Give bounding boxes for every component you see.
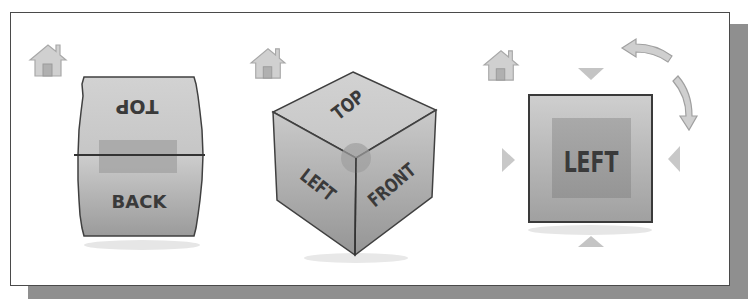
arrow-left-icon[interactable] <box>668 146 680 172</box>
home-icon[interactable] <box>484 51 518 80</box>
face-label-top: TOP <box>115 96 158 118</box>
highlight-edge <box>99 140 177 173</box>
arrow-right-icon[interactable] <box>502 148 515 172</box>
home-icon[interactable] <box>30 45 66 76</box>
face-label-back: BACK <box>112 191 168 212</box>
cube-edge <box>355 158 356 255</box>
cube-shadow <box>528 225 652 235</box>
viewcube-scene: TOP BACK TOP LEFT FRONT LEFT <box>0 0 748 299</box>
rotate-clockwise-icon[interactable] <box>673 76 697 130</box>
home-icon[interactable] <box>251 49 285 78</box>
viewcube-left-face[interactable]: LEFT <box>484 39 697 247</box>
face-label-left: LEFT <box>564 146 619 179</box>
viewcube-isometric[interactable]: TOP LEFT FRONT <box>251 49 436 263</box>
arrow-down-icon[interactable] <box>578 68 604 80</box>
viewcube-top-back[interactable]: TOP BACK <box>30 45 205 250</box>
rotate-counterclockwise-icon[interactable] <box>622 39 672 62</box>
cube-shadow <box>84 240 200 250</box>
arrow-up-icon[interactable] <box>578 236 604 247</box>
